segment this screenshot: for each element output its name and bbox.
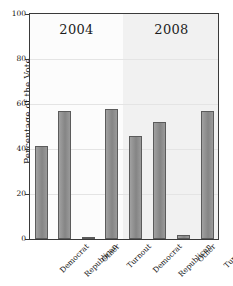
bar-shading xyxy=(178,236,189,239)
bar-2008-republican xyxy=(153,122,166,239)
y-tick-label-0: 0 xyxy=(2,235,26,243)
bar-2004-other xyxy=(82,237,95,239)
gridline-80 xyxy=(30,59,218,60)
bar-2004-republican xyxy=(58,111,71,239)
bar-shading xyxy=(59,112,70,238)
bar-2004-democrat xyxy=(35,146,48,239)
bar-shading xyxy=(202,112,213,238)
bar-2008-democrat xyxy=(129,136,142,240)
y-tick-label-60: 60 xyxy=(2,100,26,108)
gridline-60 xyxy=(30,104,218,105)
bar-shading xyxy=(36,147,47,238)
panel-header-2004: 2004 xyxy=(30,22,123,37)
bar-shading xyxy=(154,123,165,238)
chart-figure: Percentage of the Vote 020406080100 2004… xyxy=(0,0,233,286)
bar-2008-turnout xyxy=(201,111,214,239)
bar-2004-turnout xyxy=(105,109,118,240)
plot-area: 2004 2008 xyxy=(29,13,219,240)
panel-header-2008: 2008 xyxy=(123,22,219,37)
y-tick-label-20: 20 xyxy=(2,190,26,198)
y-tick-label-100: 100 xyxy=(2,10,26,18)
bar-2008-other xyxy=(177,235,190,240)
y-tick-label-80: 80 xyxy=(2,55,26,63)
y-tick-label-40: 40 xyxy=(2,145,26,153)
bar-shading xyxy=(106,110,117,239)
bar-shading xyxy=(130,137,141,239)
